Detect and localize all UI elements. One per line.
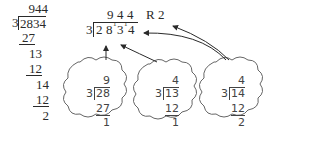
cloud-2-remainder: 1	[172, 117, 179, 129]
cloud-3-remainder: 2	[238, 117, 245, 129]
cloud-3-quotient: 4	[238, 75, 245, 87]
cloud-3-product: 12	[231, 103, 245, 116]
cloud-1-remainder: 1	[103, 117, 110, 129]
cloud-1-dividend: 28	[94, 87, 110, 100]
cloud-3-divisor: 3	[221, 88, 228, 100]
cloud-1-product: 27	[96, 103, 110, 116]
cloud-1-divisor: 3	[86, 88, 93, 100]
cloud-3-dividend: 14	[229, 87, 245, 100]
cloud-2-product: 12	[165, 103, 179, 116]
cloud-2-dividend: 13	[163, 87, 179, 100]
cloud-2-quotient: 4	[172, 75, 179, 87]
cloud-2-divisor: 3	[155, 88, 162, 100]
cloud-1-quotient: 9	[103, 75, 110, 87]
